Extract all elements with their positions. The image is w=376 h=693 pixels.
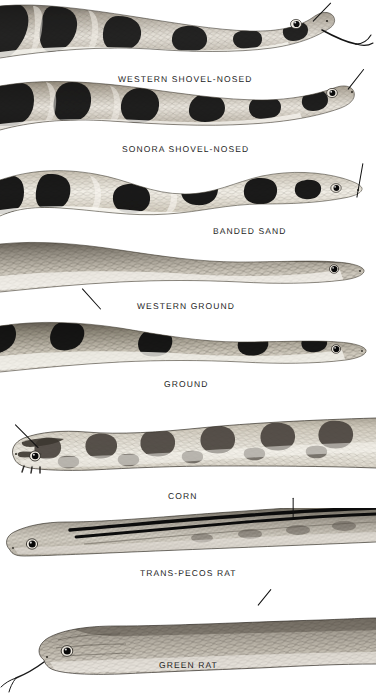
label-banded-sand: BANDED SAND (213, 226, 287, 236)
figure-green-rat (0, 600, 376, 693)
figure-ground (0, 318, 376, 380)
label-western-ground: WESTERN GROUND (137, 301, 235, 311)
figure-banded-sand (0, 160, 376, 226)
label-green-rat: GREEN RAT (159, 660, 218, 670)
pointer-line-trans-pecos-rat (292, 498, 293, 518)
figure-western-ground (0, 238, 376, 300)
figure-sonora-shovel-nosed (0, 74, 376, 140)
figure-corn (0, 408, 376, 488)
snake-plate: WESTERN SHOVEL-NOSED (0, 0, 376, 693)
label-corn: CORN (168, 491, 197, 501)
figure-trans-pecos-rat (0, 508, 376, 570)
figure-western-shovel-nosed (0, 0, 376, 70)
snake-tongue (322, 30, 356, 44)
label-ground: GROUND (164, 379, 208, 389)
snake-tongue (16, 662, 44, 678)
label-trans-pecos-rat: TRANS-PECOS RAT (140, 568, 237, 578)
label-sonora-shovel-nosed: SONORA SHOVEL-NOSED (122, 144, 249, 154)
